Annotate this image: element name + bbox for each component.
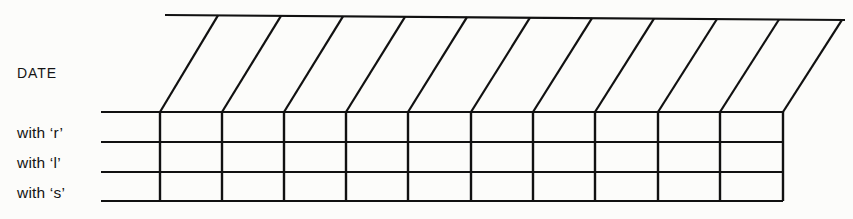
- header-slant-9: [720, 20, 779, 113]
- header-slant-2: [284, 16, 343, 112]
- header-slant-1: [222, 16, 281, 112]
- table-skeleton-diagram: [0, 0, 853, 219]
- vertical-rule-group: [160, 112, 783, 201]
- header-slant-group: [160, 15, 842, 112]
- header-slant-5: [471, 18, 530, 112]
- header-slant-8: [658, 19, 717, 112]
- row-label-with-s: with ‘s’: [17, 185, 65, 201]
- header-top-edge-group: [165, 15, 845, 20]
- header-slant-0: [160, 15, 218, 112]
- header-slant-6: [533, 18, 592, 112]
- header-label-date: DATE: [17, 66, 57, 80]
- header-slant-3: [346, 17, 405, 112]
- row-label-with-r: with ‘r’: [17, 125, 63, 141]
- header-slant-10: [783, 20, 842, 112]
- header-top-edge: [165, 15, 845, 20]
- header-slant-4: [408, 17, 467, 112]
- figure-container: DATE with ‘r’ with ‘l’ with ‘s’: [0, 0, 853, 219]
- header-slant-7: [595, 19, 654, 112]
- row-label-with-l: with ‘l’: [17, 155, 61, 171]
- horizontal-rule-group: [101, 112, 783, 201]
